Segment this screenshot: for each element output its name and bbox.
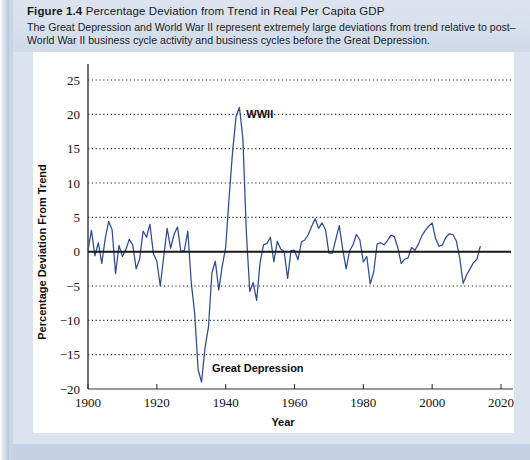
figure-caption-line-2: World War II business cycle activity and… xyxy=(27,34,430,46)
gridlines xyxy=(88,80,511,355)
y-tick-label: 25 xyxy=(67,73,80,88)
y-tick-label: 5 xyxy=(74,210,81,225)
y-tick-label: −5 xyxy=(66,279,80,294)
chart-plot-card: −20−15−10−50510152025 190019201940196019… xyxy=(33,52,514,433)
axes xyxy=(88,64,513,389)
y-tick-label: 10 xyxy=(67,176,80,191)
data-series-layer xyxy=(88,107,480,382)
gdp-deviation-line xyxy=(88,107,480,382)
x-axis-title: Year xyxy=(271,416,295,428)
page-spine xyxy=(0,0,9,460)
x-axis-tick-labels: 1900192019401960198020002020 xyxy=(75,395,514,410)
annotation-wwii: WWII xyxy=(246,108,273,120)
y-tick-label: 20 xyxy=(67,107,80,122)
figure-header: Figure 1.4 Percentage Deviation from Tre… xyxy=(13,0,530,52)
figure-title: Figure 1.4 Percentage Deviation from Tre… xyxy=(27,4,520,18)
x-tick-label: 1920 xyxy=(144,395,170,410)
x-tick-label: 1960 xyxy=(282,395,308,410)
figure-caption-line-1: The Great Depression and World War II re… xyxy=(27,21,516,33)
figure-caption: The Great Depression and World War II re… xyxy=(27,21,520,47)
gdp-deviation-line-chart: −20−15−10−50510152025 190019201940196019… xyxy=(33,52,514,433)
y-tick-label: −10 xyxy=(60,313,80,328)
y-tick-label: 15 xyxy=(67,141,80,156)
x-tick-label: 2000 xyxy=(419,395,445,410)
figure-number: Figure 1.4 xyxy=(27,5,82,17)
page-bottom-strip xyxy=(13,444,530,460)
y-axis-title: Percentage Deviation From Trend xyxy=(36,164,48,339)
y-tick-label: 0 xyxy=(74,244,81,259)
annotation-great-depression: Great Depression xyxy=(212,362,304,374)
x-tick-label: 1900 xyxy=(75,395,101,410)
x-tick-label: 1940 xyxy=(213,395,239,410)
y-axis-tick-labels: −20−15−10−50510152025 xyxy=(60,73,80,397)
x-tick-label: 2020 xyxy=(488,395,514,410)
y-tick-label: −15 xyxy=(60,347,80,362)
figure-root: Figure 1.4 Percentage Deviation from Tre… xyxy=(0,0,530,460)
figure-title-text: Percentage Deviation from Trend in Real … xyxy=(86,5,385,17)
x-tick-label: 1980 xyxy=(350,395,376,410)
